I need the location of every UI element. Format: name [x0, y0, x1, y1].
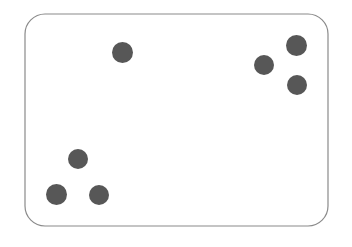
scene-root — [0, 0, 352, 247]
scatter-dot — [287, 75, 307, 95]
scatter-dot — [286, 35, 307, 56]
scatter-dot — [254, 55, 274, 75]
scatter-dot — [68, 149, 88, 169]
scatter-dot — [112, 42, 133, 63]
card-rounded-rect — [25, 14, 328, 226]
scatter-dot — [89, 185, 109, 205]
scatter-dot — [46, 184, 67, 205]
